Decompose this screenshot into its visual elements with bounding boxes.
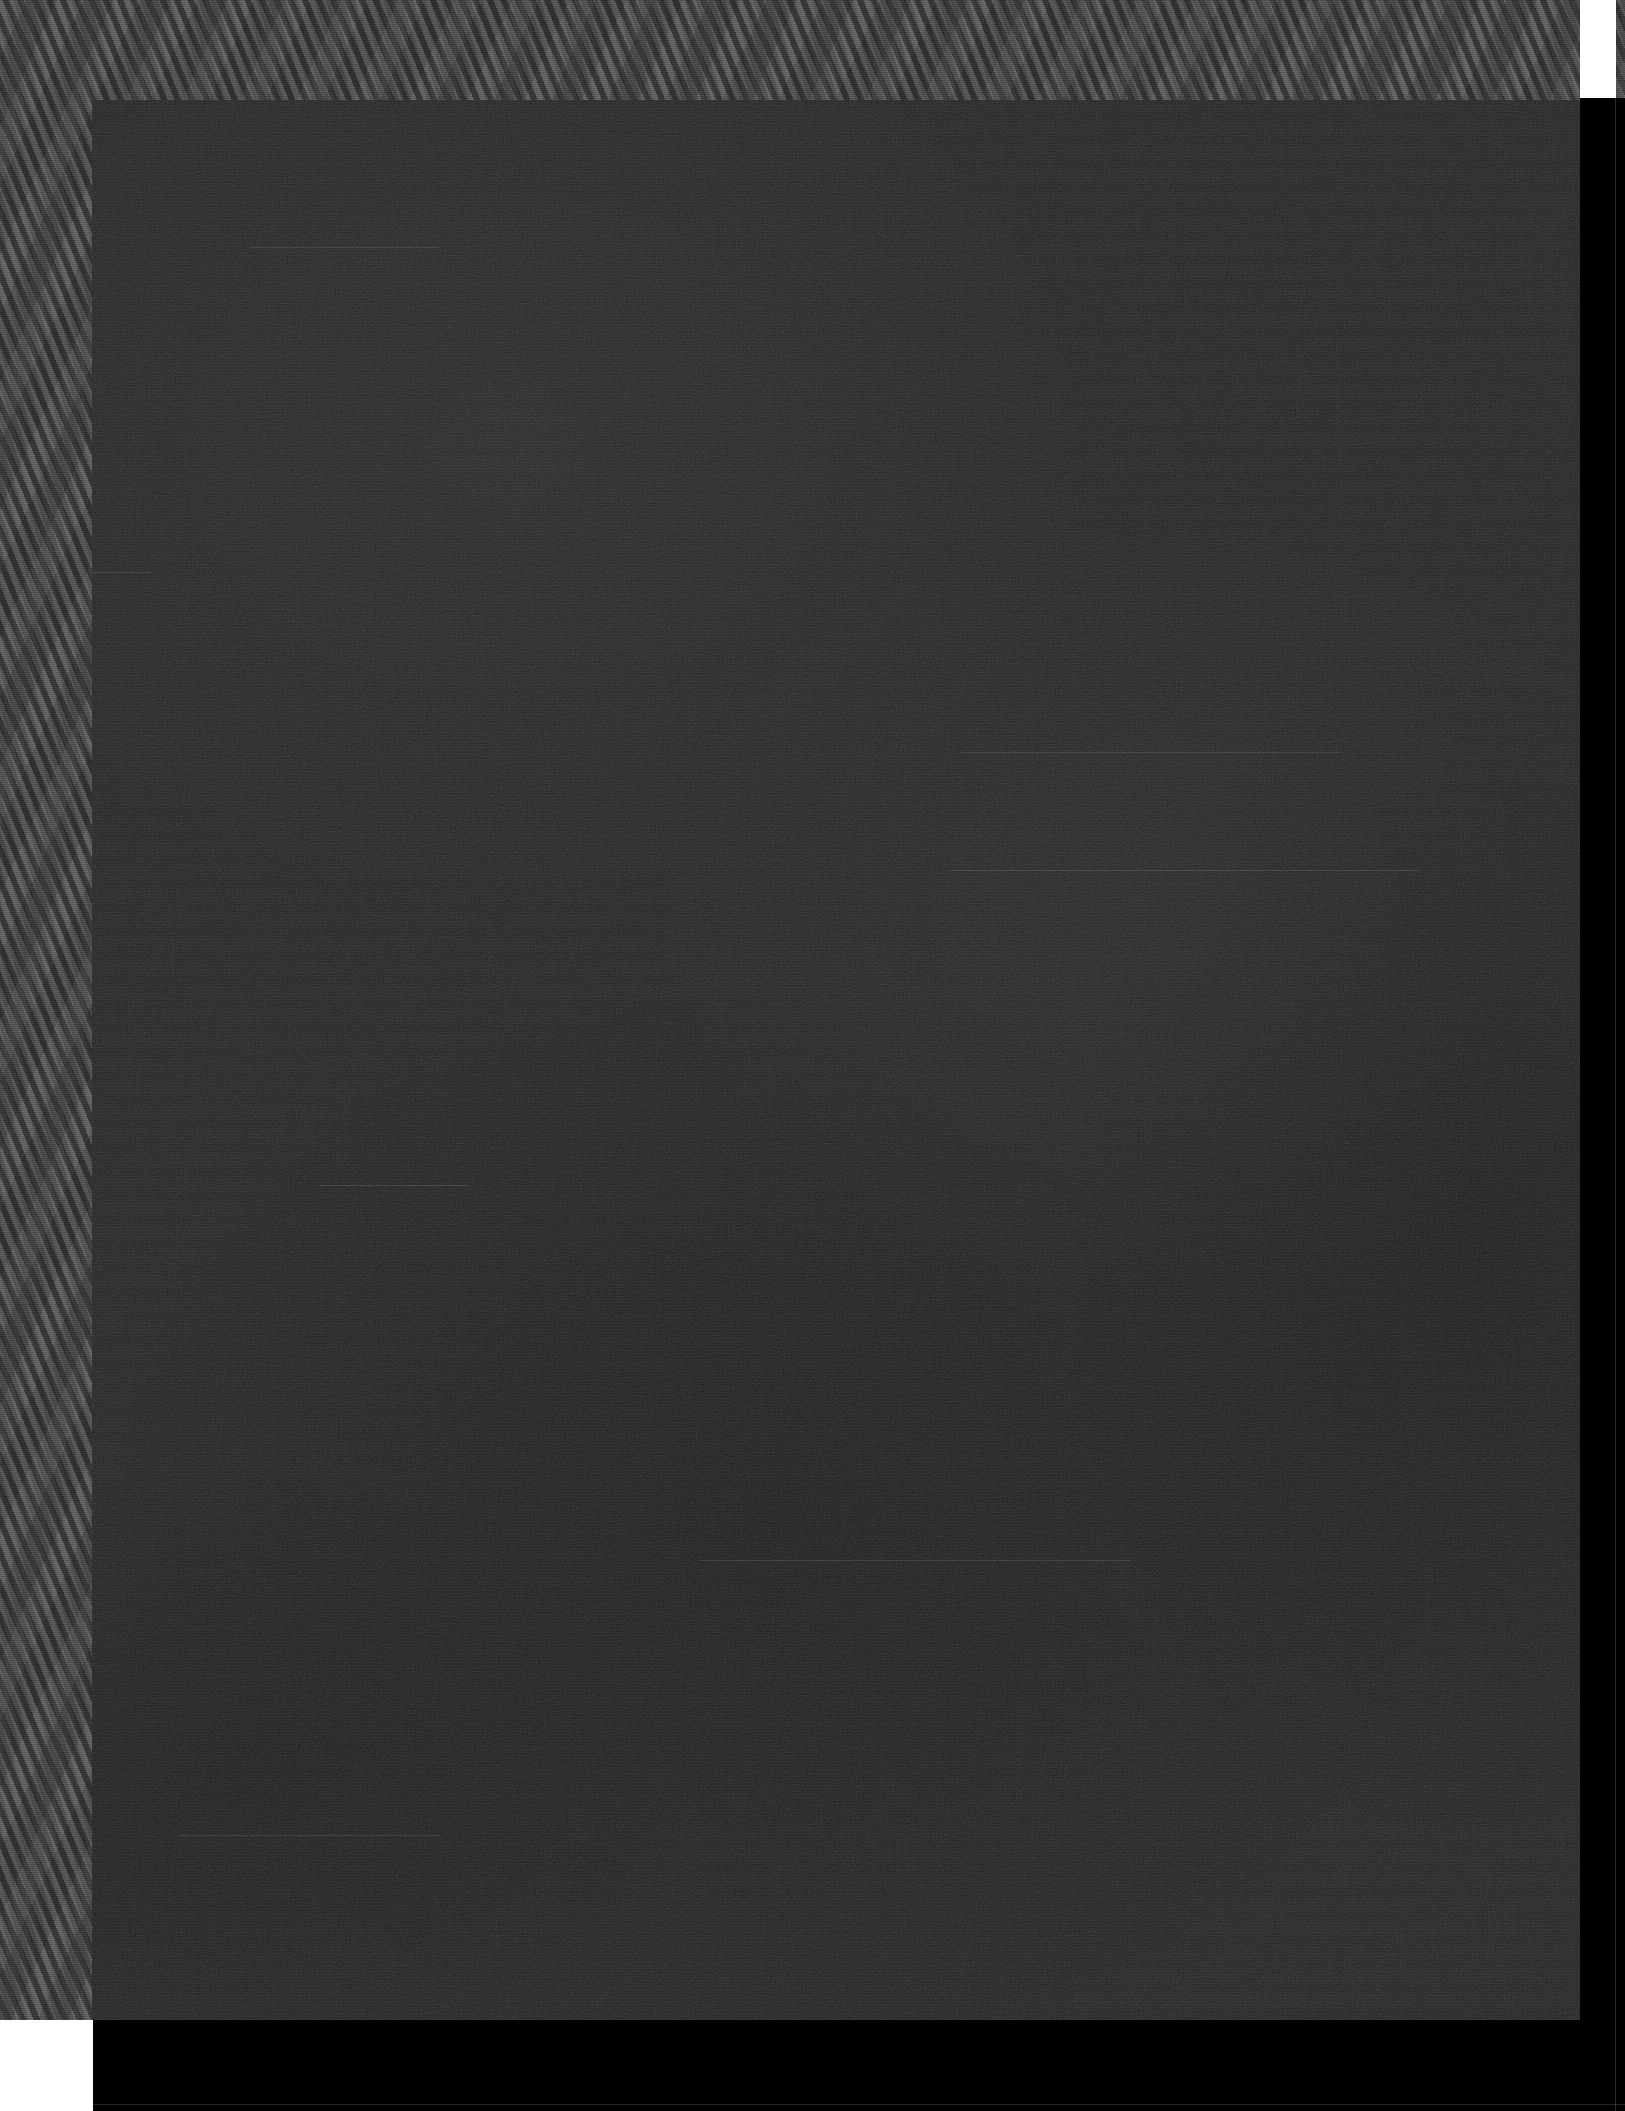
edge-hairline-right xyxy=(1615,98,1616,2111)
scanned-page xyxy=(0,0,1625,2111)
scan-streak-artifact xyxy=(320,1185,470,1186)
scan-streak-artifact xyxy=(960,752,1340,753)
scan-streak-artifact xyxy=(92,572,152,573)
scan-streak-artifact xyxy=(180,1835,440,1836)
scan-grain-texture xyxy=(92,100,1580,2020)
registration-block-bottom-left xyxy=(0,2020,93,2111)
registration-block-top-right xyxy=(1580,0,1616,98)
scan-body xyxy=(92,100,1580,2020)
edge-hairline-bottom xyxy=(93,2104,1625,2105)
scan-streak-artifact xyxy=(950,870,1420,871)
edge-band-right xyxy=(1580,98,1625,2111)
scan-streak-artifact xyxy=(700,1560,1130,1561)
scan-streak-artifact xyxy=(250,247,440,248)
edge-band-bottom xyxy=(93,2020,1625,2111)
